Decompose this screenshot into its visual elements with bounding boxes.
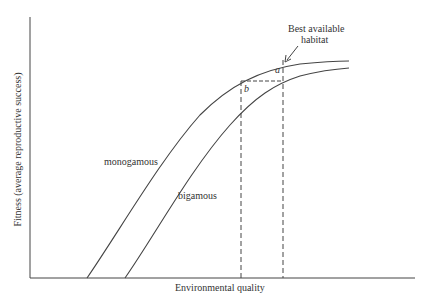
best-habitat-label-line2: habitat xyxy=(301,34,328,45)
bigamous-label: bigamous xyxy=(178,190,217,201)
polygyny-threshold-diagram xyxy=(0,0,425,301)
label-a: a xyxy=(275,64,280,75)
x-axis-label: Environmental quality xyxy=(175,282,265,293)
label-b: b xyxy=(244,83,249,94)
monogamous-label: monogamous xyxy=(104,156,158,167)
best-habitat-label-line1: Best available xyxy=(288,23,344,34)
best-habitat-arrow xyxy=(287,46,298,60)
monogamous-curve xyxy=(87,61,349,278)
y-axis-label: Fitness (average reproductive success) xyxy=(12,55,23,245)
bigamous-curve xyxy=(125,68,349,278)
